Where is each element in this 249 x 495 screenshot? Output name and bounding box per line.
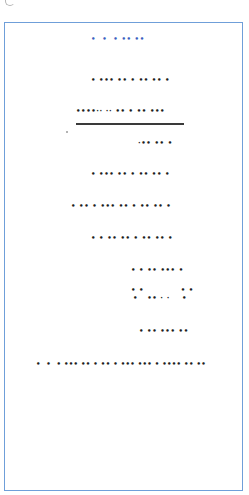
partial-circle-icon xyxy=(5,0,15,6)
text-line-5: • •• • ••• •• • •• •• • xyxy=(71,202,171,210)
divider xyxy=(76,123,184,125)
text-line-10: • •• ••• •• xyxy=(139,327,189,335)
text-line-11: • • • ••• •• • •• • ••• ••• • •••• •• •• xyxy=(36,360,206,368)
text-line-6: • • •• •• • •• •• • xyxy=(91,234,173,242)
text-line-7: • • •• ••• • xyxy=(131,266,184,274)
text-line-1: • ••• •• • •• •• • xyxy=(91,76,170,84)
stray-mark xyxy=(66,131,68,133)
text-line-8: • • • • xyxy=(131,286,194,294)
text-line-9: • •• · · • xyxy=(133,294,187,302)
text-line-3: ·•• •• • xyxy=(138,139,173,147)
document-card: • • • •• •• • ••• •• • •• •• • ••••·· ··… xyxy=(4,22,243,491)
text-line-4: • ••• •• • •• •• • xyxy=(91,170,170,178)
document-title: • • • •• •• xyxy=(91,35,145,43)
text-line-2: ••••·· ·· •• • •• ••• xyxy=(76,107,165,115)
